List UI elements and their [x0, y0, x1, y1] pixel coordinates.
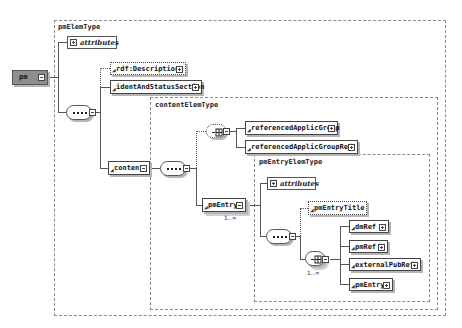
- connector: [100, 168, 108, 169]
- element-externalPubRef[interactable]: ◢ externalPubRef: [349, 258, 421, 271]
- element-label: dmRef: [355, 223, 376, 231]
- sequence-icon: [167, 168, 181, 172]
- connector: [100, 87, 110, 88]
- sequence-icon: [273, 236, 287, 240]
- element-label: pmEntry: [208, 201, 238, 209]
- connector: [150, 168, 160, 169]
- connector: [48, 77, 58, 78]
- element-marker-icon: ◢: [247, 146, 251, 152]
- attributes-label: attributes: [80, 38, 119, 47]
- expand-icon[interactable]: [270, 180, 277, 187]
- element-pmEntryTitle[interactable]: ◢ pmEntryTitle: [308, 201, 367, 215]
- connector: [340, 264, 349, 265]
- connector: [196, 168, 197, 205]
- element-marker-icon: ◢: [310, 207, 314, 213]
- connector: [58, 42, 59, 112]
- element-label: rdf:Description: [116, 65, 179, 73]
- expand-icon[interactable]: [70, 39, 77, 46]
- element-label: pm: [19, 73, 27, 81]
- sequence-icon: [73, 112, 87, 116]
- expand-icon[interactable]: [379, 224, 386, 231]
- collapse-icon[interactable]: [140, 165, 147, 172]
- element-referencedApplicGroupRef[interactable]: ◢ referencedApplicGroupRef: [245, 140, 358, 154]
- expand-icon[interactable]: [192, 84, 199, 91]
- expand-icon[interactable]: [378, 244, 385, 251]
- connector-optional: [196, 131, 206, 132]
- choice-compositor[interactable]: [206, 124, 226, 138]
- expand-icon[interactable]: [176, 66, 183, 73]
- element-referencedApplicGroup[interactable]: ◢ referencedApplicGroup: [245, 121, 338, 135]
- connector: [236, 128, 245, 129]
- element-content[interactable]: ◢ content: [108, 161, 150, 175]
- connector: [58, 112, 66, 113]
- collapse-icon[interactable]: [236, 202, 243, 209]
- connector: [330, 259, 340, 260]
- sequence-compositor[interactable]: [160, 161, 186, 176]
- collapse-icon[interactable]: [322, 256, 329, 263]
- element-pmRef[interactable]: ◢ pmRef: [349, 240, 388, 253]
- connector: [300, 236, 301, 259]
- element-pmEntry[interactable]: ◢ pmEntry: [202, 198, 246, 212]
- sequence-compositor[interactable]: [66, 105, 92, 120]
- connector-optional: [300, 208, 308, 209]
- element-marker-icon: ◢: [204, 204, 208, 210]
- connector: [246, 205, 260, 206]
- element-marker-icon: ◢: [112, 67, 116, 73]
- expand-icon[interactable]: [383, 282, 390, 289]
- connector: [236, 147, 245, 148]
- cardinality-label: 1..∞: [224, 214, 237, 221]
- connector: [260, 183, 261, 236]
- element-marker-icon: ◢: [247, 127, 251, 133]
- element-label: pmEntryTitle: [314, 204, 365, 212]
- connector: [340, 226, 349, 227]
- element-dmRef[interactable]: ◢ dmRef: [349, 220, 389, 233]
- element-marker-icon: ◢: [351, 225, 355, 231]
- type-label-pmElemType: pmElemType: [58, 23, 100, 31]
- element-marker-icon: ◢: [351, 283, 355, 289]
- collapse-icon[interactable]: [289, 233, 296, 240]
- element-marker-icon: ◢: [351, 263, 355, 269]
- expand-icon[interactable]: [348, 144, 355, 151]
- collapse-icon[interactable]: [89, 109, 96, 116]
- element-identAndStatusSection[interactable]: ◢ identAndStatusSection: [110, 80, 202, 94]
- choice-compositor[interactable]: [305, 251, 325, 266]
- element-label: pmRef: [355, 243, 376, 251]
- collapse-icon[interactable]: [183, 165, 190, 172]
- collapse-icon[interactable]: [223, 128, 230, 135]
- connector-optional: [100, 68, 101, 87]
- element-pmEntry-nested[interactable]: ◢ pmEntry: [349, 278, 393, 291]
- connector: [100, 87, 101, 169]
- attributes-group-pmEntryElemType[interactable]: attributes: [267, 177, 316, 190]
- element-marker-icon: ◢: [351, 245, 355, 251]
- sequence-compositor[interactable]: [266, 229, 292, 244]
- connector-optional: [196, 131, 197, 168]
- root-element-pm[interactable]: pm: [12, 70, 48, 85]
- connector: [340, 284, 349, 285]
- element-rdf-description[interactable]: ◢ rdf:Description: [110, 62, 186, 75]
- connector: [260, 183, 267, 184]
- type-label-contentElemType: contentElemType: [155, 101, 218, 109]
- connector: [236, 128, 237, 148]
- element-label: externalPubRef: [355, 261, 414, 269]
- cardinality-label: 1..∞: [307, 269, 320, 276]
- collapse-icon[interactable]: [38, 74, 45, 81]
- connector: [58, 42, 67, 43]
- element-label: referencedApplicGroup: [251, 124, 340, 132]
- type-label-pmEntryElemType: pmEntryElemType: [259, 158, 322, 166]
- connector-optional: [100, 68, 110, 69]
- element-label: referencedApplicGroupRef: [251, 143, 352, 151]
- expand-icon[interactable]: [328, 125, 335, 132]
- element-marker-icon: ◢: [110, 167, 114, 173]
- attributes-group-pmElemType[interactable]: attributes: [67, 36, 117, 49]
- connector: [340, 226, 341, 285]
- connector-optional: [300, 208, 301, 236]
- connector: [340, 246, 349, 247]
- element-marker-icon: ◢: [112, 86, 116, 92]
- attributes-label: attributes: [280, 179, 319, 188]
- expand-icon[interactable]: [411, 262, 418, 269]
- element-label: pmEntry: [355, 281, 385, 289]
